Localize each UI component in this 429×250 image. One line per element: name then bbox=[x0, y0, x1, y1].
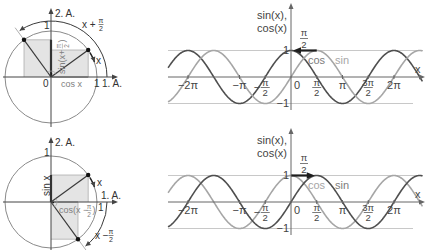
tick-num: π bbox=[313, 77, 320, 88]
angle-label: x bbox=[97, 177, 102, 188]
graph-bottom: −2π−ππ2−0π2π3π22π sin(x), cos(x) 1 −1 π … bbox=[168, 128, 425, 235]
x-tick-label: 3π2 bbox=[362, 77, 374, 99]
unit-y-label: 1 bbox=[44, 20, 50, 31]
x-tick-label: −2π bbox=[178, 204, 199, 216]
tick-den: 2 bbox=[263, 87, 268, 98]
tick-num: π bbox=[262, 77, 269, 88]
x-tick-label: 2π bbox=[387, 79, 401, 91]
unit-y-label: 1 bbox=[44, 147, 50, 158]
x-tick-label: π2− bbox=[254, 202, 270, 224]
point-q bbox=[76, 237, 80, 241]
trig-shift-figure: 2. A. 1 x + π 2 x 0 cos x 1 1. A. sin(x+… bbox=[0, 0, 429, 250]
shifted-angle-prefix: x − bbox=[95, 230, 109, 241]
shifted-angle-label: x + π 2 bbox=[82, 17, 104, 32]
unit-circle-top: 2. A. 1 x + π 2 x 0 cos x 1 1. A. sin(x+… bbox=[3, 8, 122, 127]
plot-area: −2π−ππ2−0π2π3π22π bbox=[168, 47, 422, 103]
shift-annotation-label: π 2 bbox=[300, 152, 308, 175]
projection-y-text: sin x bbox=[41, 175, 52, 196]
tick-den: 2 bbox=[366, 87, 371, 98]
x-tick-label: π bbox=[339, 79, 347, 91]
x-axis-label: x bbox=[415, 63, 421, 75]
shifted-angle-label: x − π 2 bbox=[95, 228, 114, 243]
shifted-angle-num: π bbox=[109, 228, 114, 235]
tick-num: π bbox=[313, 202, 320, 213]
projection-x-den: 2 bbox=[87, 211, 91, 218]
angle-x-arrow-icon bbox=[91, 57, 96, 63]
shift-annotation-label: π 2 bbox=[300, 27, 308, 50]
unit-x-label: 1 bbox=[98, 202, 104, 213]
curve-label-cos: cos bbox=[308, 179, 326, 191]
x-tick-label: 3π2 bbox=[362, 202, 374, 224]
axis-2-label: 2. A. bbox=[55, 8, 75, 19]
shifted-angle-den: 2 bbox=[109, 236, 113, 243]
x-axis-arrow-icon bbox=[419, 75, 425, 80]
shifted-angle-num: π bbox=[99, 17, 104, 24]
curve-label-sin: sin bbox=[335, 54, 349, 66]
x-tick-label: −2π bbox=[178, 79, 199, 91]
y-tick-label-1: 1 bbox=[283, 169, 289, 181]
y-axis-label-line2: cos(x) bbox=[257, 147, 287, 159]
axis-2-arrow-icon bbox=[49, 8, 54, 14]
tick-num: 3π bbox=[362, 77, 374, 88]
axis-1-label: 1. A. bbox=[102, 78, 122, 89]
unit-x-label: 1 bbox=[94, 78, 100, 89]
x-tick-label: −π bbox=[233, 204, 247, 216]
y-tick-label-neg1: −1 bbox=[276, 222, 289, 234]
tick-den: 2 bbox=[314, 212, 319, 223]
tick-num: 3π bbox=[362, 202, 374, 213]
x-axis-label: x bbox=[415, 188, 421, 200]
x-axis-arrow-icon bbox=[419, 200, 425, 205]
axis-2-label: 2. A. bbox=[55, 137, 75, 148]
projection-x-label: cos x bbox=[61, 79, 83, 89]
shifted-angle-den: 2 bbox=[99, 25, 103, 32]
tick-den: 2 bbox=[263, 212, 268, 223]
x-tick-label: 0 bbox=[294, 204, 300, 216]
projection-y-num: π bbox=[55, 43, 62, 48]
shift-den: 2 bbox=[301, 164, 306, 175]
point-p bbox=[86, 173, 90, 177]
x-tick-label: 0 bbox=[294, 79, 300, 91]
y-axis-label-line1: sin(x), bbox=[257, 134, 287, 146]
shift-num: π bbox=[301, 27, 308, 38]
projection-x-suffix: ) bbox=[93, 205, 96, 215]
plot-area: −2π−ππ2−0π2π3π22π bbox=[168, 172, 422, 228]
angle-x-arrow-icon bbox=[91, 182, 96, 188]
x-tick-label: −π bbox=[233, 79, 247, 91]
projection-y-prefix: sin(x+ bbox=[57, 50, 67, 74]
point-q bbox=[22, 38, 26, 42]
projection-y-label: sin x bbox=[41, 175, 52, 196]
axis-2-arrow-icon bbox=[49, 137, 54, 143]
y-axis-label-line2: cos(x) bbox=[257, 22, 287, 34]
y-axis-arrow-icon bbox=[289, 128, 294, 134]
tick-den: 2 bbox=[366, 212, 371, 223]
y-axis-label-line1: sin(x), bbox=[257, 9, 287, 21]
point-p bbox=[86, 48, 90, 52]
shift-den: 2 bbox=[301, 39, 306, 50]
graph-top: −2π−ππ2−0π2π3π22π sin(x), cos(x) 1 −1 π … bbox=[168, 3, 425, 110]
projection-x-prefix: cos(x − bbox=[59, 205, 88, 215]
shifted-angle-prefix: x + bbox=[82, 19, 96, 30]
y-tick-label-neg1: −1 bbox=[276, 97, 289, 109]
projection-x-num: π bbox=[87, 203, 92, 210]
tick-num: π bbox=[262, 202, 269, 213]
tick-den: 2 bbox=[314, 87, 319, 98]
shift-num: π bbox=[301, 152, 308, 163]
tick-sign: − bbox=[254, 206, 260, 218]
projection-y-suffix: ) bbox=[57, 40, 67, 43]
x-tick-label: π2 bbox=[312, 77, 321, 99]
projection-y-den: 2 bbox=[63, 44, 70, 48]
curve-label-cos: cos bbox=[308, 54, 326, 66]
x-tick-label: π2 bbox=[312, 202, 321, 224]
x-tick-label: 2π bbox=[387, 204, 401, 216]
y-tick-label-1: 1 bbox=[283, 44, 289, 56]
curve-label-sin: sin bbox=[335, 179, 349, 191]
x-tick-label: π bbox=[339, 204, 347, 216]
unit-circle-bottom: 2. A. 1 x 1. A. 1 sin x cos(x − π 2 ) x … bbox=[3, 137, 121, 250]
x-tick-label: π2− bbox=[254, 77, 270, 99]
tick-sign: − bbox=[254, 81, 260, 93]
angle-label: x bbox=[96, 55, 101, 66]
origin-label: 0 bbox=[43, 78, 49, 89]
right-angle-dot bbox=[51, 73, 53, 75]
y-axis-arrow-icon bbox=[289, 3, 294, 9]
axis-1-label: 1. A. bbox=[101, 190, 121, 201]
